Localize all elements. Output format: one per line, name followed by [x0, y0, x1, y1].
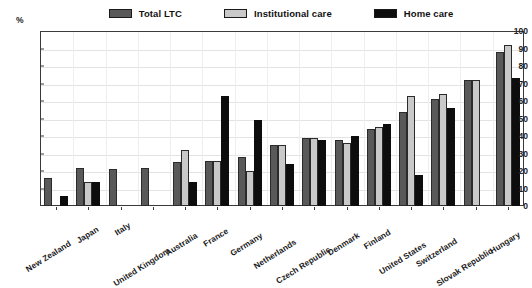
x-tick-mark: [250, 207, 251, 210]
x-tick-mark: [88, 207, 89, 210]
y-tick-label: 20: [519, 166, 528, 176]
bar: [278, 145, 286, 206]
x-tick-mark: [153, 207, 154, 210]
bar: [375, 127, 383, 206]
bar: [246, 171, 254, 206]
bar: [447, 108, 455, 206]
legend-item-home: Home care: [374, 8, 453, 19]
bar: [415, 175, 423, 207]
y-tick-label: 80: [519, 61, 528, 71]
x-axis-labels: New ZealandJapanItalyUnited KingdomAustr…: [40, 207, 524, 273]
x-tick-mark: [443, 207, 444, 210]
y-axis-labels: [0, 31, 36, 206]
x-tick-mark: [282, 207, 283, 210]
bar: [84, 182, 92, 207]
bar-group: [363, 31, 395, 206]
bar: [173, 162, 181, 206]
legend-label: Total LTC: [139, 8, 182, 19]
bar: [399, 112, 407, 207]
y-tick-label: 30: [519, 149, 528, 159]
bar: [44, 178, 52, 206]
y-tick-label: 60: [519, 96, 528, 106]
x-tick-label: France: [202, 227, 230, 249]
bar-group: [427, 31, 459, 206]
bar-group: [72, 31, 104, 206]
bar: [205, 161, 213, 207]
bar: [310, 138, 318, 206]
bar-group: [169, 31, 201, 206]
y-tick-mark: [40, 153, 44, 154]
bar-group: [266, 31, 298, 206]
bar: [383, 124, 391, 206]
y-tick-mark: [40, 118, 44, 119]
bar: [221, 96, 229, 206]
bar: [439, 94, 447, 206]
bar: [76, 168, 84, 207]
y-tick-label: 100: [514, 26, 528, 36]
bar: [254, 120, 262, 206]
x-tick-mark: [185, 207, 186, 210]
bar: [181, 150, 189, 206]
bar: [504, 45, 512, 206]
x-tick-label: New Zealand: [25, 239, 73, 274]
bar: [318, 140, 326, 207]
y-tick-label: 90: [519, 44, 528, 54]
legend-swatch-home: [374, 9, 397, 18]
bar: [302, 138, 310, 206]
bar: [431, 99, 439, 206]
x-tick-mark: [314, 207, 315, 210]
y-tick-mark: [40, 48, 44, 49]
y-tick-label: 50: [519, 114, 528, 124]
y-tick-mark: [40, 101, 44, 102]
x-tick-label: Denmark: [326, 231, 361, 258]
y-tick-label: 70: [519, 79, 528, 89]
x-tick-mark: [476, 207, 477, 210]
y-tick-mark: [40, 188, 44, 189]
x-tick-label: Japan: [76, 225, 101, 245]
x-tick-label: Italy: [113, 221, 132, 238]
y-tick-label: 40: [519, 131, 528, 141]
bar: [367, 129, 375, 206]
x-tick-label: United Kingdom: [112, 246, 172, 288]
legend-swatch-institutional: [224, 9, 247, 18]
chart-legend: Total LTCInstitutional careHome care: [0, 4, 532, 22]
y-tick-mark: [40, 136, 44, 137]
bars-layer: [40, 31, 524, 206]
bar: [270, 145, 278, 206]
bar: [464, 80, 472, 206]
x-tick-mark: [217, 207, 218, 210]
bar-group: [40, 31, 72, 206]
x-tick-mark: [508, 207, 509, 210]
bar: [286, 164, 294, 206]
bar: [472, 80, 480, 206]
x-tick-label: Australia: [164, 231, 199, 258]
bar-group: [201, 31, 233, 206]
bar: [496, 52, 504, 206]
bar: [407, 96, 415, 206]
bar-group: [298, 31, 330, 206]
legend-item-total: Total LTC: [109, 8, 182, 19]
x-tick-label: Finland: [362, 228, 392, 251]
x-tick-mark: [56, 207, 57, 210]
bar-group: [330, 31, 362, 206]
x-tick-mark: [379, 207, 380, 210]
bar: [92, 182, 100, 207]
bar-group: [459, 31, 491, 206]
y-tick-label: 10: [519, 184, 528, 194]
bar-group: [234, 31, 266, 206]
x-tick-mark: [411, 207, 412, 210]
legend-item-institutional: Institutional care: [224, 8, 332, 19]
bar: [109, 169, 117, 206]
y-tick-mark: [40, 171, 44, 172]
y-axis-unit-label: %: [16, 15, 24, 25]
bar: [60, 196, 68, 207]
bar: [343, 143, 351, 206]
bar: [141, 168, 149, 207]
x-tick-label: Germany: [229, 231, 264, 258]
bar-group: [395, 31, 427, 206]
bar-group: [105, 31, 137, 206]
x-tick-label: Netherlands: [252, 238, 298, 271]
x-tick-mark: [121, 207, 122, 210]
y-tick-mark: [40, 83, 44, 84]
